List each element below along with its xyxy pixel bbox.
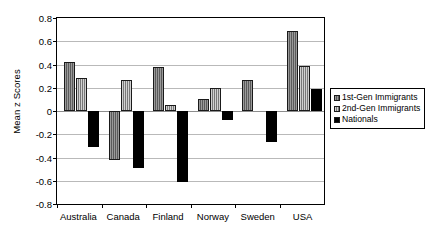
legend-swatch-icon <box>334 95 340 101</box>
legend-label: 1st-Gen Immigrants <box>342 92 417 103</box>
y-axis-title: Mean z Scores <box>11 42 22 162</box>
bar[interactable] <box>109 111 120 160</box>
bar[interactable] <box>165 105 176 111</box>
legend: 1st-Gen Immigrants2nd-Gen ImmigrantsNati… <box>330 88 425 129</box>
bar[interactable] <box>222 111 233 120</box>
bar[interactable] <box>287 31 298 111</box>
bar-group <box>102 18 147 204</box>
x-axis-tick-mark <box>57 204 58 208</box>
bar-group <box>235 18 280 204</box>
x-axis-tick-label: Norway <box>190 211 235 222</box>
bar[interactable] <box>266 111 277 142</box>
x-axis-tick-label: Finland <box>146 211 191 222</box>
plot-area: 0.80.60.40.20-0.2-0.4-0.6-0.8 <box>56 17 325 205</box>
y-axis-tick-label: 0.2 <box>39 82 52 93</box>
y-axis-tick-label: -0.8 <box>36 199 52 210</box>
x-axis-tick-label: USA <box>280 211 325 222</box>
legend-swatch-icon <box>334 106 340 112</box>
bar[interactable] <box>121 80 132 111</box>
legend-swatch-icon <box>334 117 340 123</box>
bar[interactable] <box>64 62 75 111</box>
bar[interactable] <box>177 111 188 182</box>
bar-group <box>57 18 102 204</box>
bar-group <box>280 18 325 204</box>
x-axis-tick-labels: AustraliaCanadaFinlandNorwaySwedenUSA <box>56 211 325 222</box>
bar[interactable] <box>311 89 322 111</box>
y-axis-tick-label: 0 <box>47 106 52 117</box>
x-axis-tick-mark <box>280 204 281 208</box>
legend-item[interactable]: 2nd-Gen Immigrants <box>334 103 420 114</box>
bar[interactable] <box>88 111 99 147</box>
x-axis-tick-mark <box>146 204 147 208</box>
legend-item[interactable]: Nationals <box>334 114 420 125</box>
bar[interactable] <box>198 99 209 111</box>
y-axis-tick-label: -0.2 <box>36 129 52 140</box>
x-axis-tick-label: Australia <box>56 211 101 222</box>
bar[interactable] <box>210 88 221 111</box>
y-axis-tick-label: 0.4 <box>39 59 52 70</box>
y-axis-tick-label: 0.8 <box>39 13 52 24</box>
bar-groups <box>57 18 324 204</box>
x-axis-tick-mark <box>102 204 103 208</box>
bar[interactable] <box>153 67 164 111</box>
bar[interactable] <box>133 111 144 168</box>
y-axis-tick-label: -0.6 <box>36 175 52 186</box>
y-axis-tick-label: -0.4 <box>36 152 52 163</box>
bar-group <box>191 18 236 204</box>
bar[interactable] <box>299 66 310 111</box>
x-axis-tick-label: Sweden <box>235 211 280 222</box>
x-axis-tick-mark <box>191 204 192 208</box>
bar[interactable] <box>76 78 87 111</box>
bar-chart: Mean z Scores 0.80.60.40.20-0.2-0.4-0.6-… <box>0 0 446 244</box>
legend-label: Nationals <box>342 114 378 125</box>
x-axis-tick-label: Canada <box>101 211 146 222</box>
bar-group <box>146 18 191 204</box>
y-axis-tick-label: 0.6 <box>39 36 52 47</box>
x-axis-tick-mark <box>235 204 236 208</box>
bar[interactable] <box>242 80 253 111</box>
legend-label: 2nd-Gen Immigrants <box>342 103 420 114</box>
legend-item[interactable]: 1st-Gen Immigrants <box>334 92 420 103</box>
